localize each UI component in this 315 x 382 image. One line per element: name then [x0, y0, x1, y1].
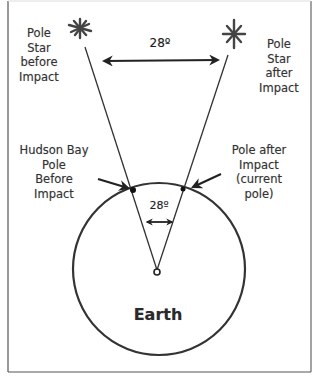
center-angle-label: 28º — [140, 199, 178, 214]
top-angle-arrow — [104, 60, 218, 61]
earth-label: Earth — [120, 306, 196, 324]
hudson-bay-pole-dot — [130, 187, 136, 193]
pole-shift-diagram: Pole Star before Impact Pole Star after … — [0, 0, 315, 382]
asterisk-star-icon — [223, 20, 245, 48]
pole-after-impact-label: Pole after Impact (current pole) — [218, 143, 300, 201]
line-to-star-before — [85, 47, 157, 270]
current-pole-dot — [181, 187, 186, 192]
pole-star-after-label: Pole Star after Impact — [254, 37, 304, 95]
hudson-bay-pointer-arrow — [98, 179, 128, 188]
top-angle-label: 28º — [140, 36, 180, 51]
pole-star-before-label: Pole Star before Impact — [14, 26, 64, 84]
hudson-bay-pole-label: Hudson Bay Pole Before Impact — [14, 143, 94, 201]
earth-center-point — [154, 269, 160, 275]
current-pole-pointer-arrow — [193, 174, 221, 187]
asterisk-star-icon — [69, 19, 91, 38]
